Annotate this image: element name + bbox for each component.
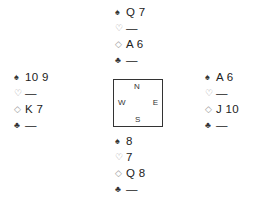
club-icon: ♣ (205, 117, 216, 133)
south-hand: ♠ 8 ♡ 7 ◇ Q 8 ♣ — (115, 133, 145, 197)
east-clubs: — (216, 117, 228, 133)
south-hearts: 7 (126, 149, 133, 165)
east-diamonds-row: ◇ J 10 (205, 101, 239, 117)
heart-icon: ♡ (115, 149, 126, 165)
north-clubs: — (126, 52, 138, 68)
south-clubs: — (126, 181, 138, 197)
east-spades-row: ♠ A 6 (205, 69, 239, 85)
east-clubs-row: ♣ — (205, 117, 239, 133)
compass-south-label: S (135, 115, 140, 124)
club-icon: ♣ (115, 52, 126, 68)
north-diamonds-row: ◇ A 6 (115, 36, 145, 52)
spade-icon: ♠ (115, 133, 126, 149)
north-hearts: — (126, 20, 138, 36)
south-spades-row: ♠ 8 (115, 133, 145, 149)
heart-icon: ♡ (205, 85, 216, 101)
compass-north-label: N (134, 82, 140, 91)
compass-west-label: W (118, 98, 126, 107)
north-hearts-row: ♡ — (115, 20, 145, 36)
spade-icon: ♠ (115, 4, 126, 20)
south-clubs-row: ♣ — (115, 181, 145, 197)
compass-east-label: E (153, 98, 158, 107)
east-spades: A 6 (216, 69, 234, 85)
spade-icon: ♠ (14, 69, 25, 85)
compass-table: N W E S (113, 79, 163, 127)
heart-icon: ♡ (115, 20, 126, 36)
east-hearts-row: ♡ — (205, 85, 239, 101)
west-hearts-row: ♡ — (14, 85, 49, 101)
heart-icon: ♡ (14, 85, 25, 101)
club-icon: ♣ (14, 117, 25, 133)
diamond-icon: ◇ (14, 101, 25, 117)
west-diamonds-row: ◇ K 7 (14, 101, 49, 117)
club-icon: ♣ (115, 181, 126, 197)
south-diamonds: Q 8 (126, 165, 145, 181)
spade-icon: ♠ (205, 69, 216, 85)
west-hand: ♠ 10 9 ♡ — ◇ K 7 ♣ — (14, 69, 49, 133)
north-hand: ♠ Q 7 ♡ — ◇ A 6 ♣ — (115, 4, 145, 68)
east-hand: ♠ A 6 ♡ — ◇ J 10 ♣ — (205, 69, 239, 133)
west-hearts: — (25, 85, 37, 101)
east-hearts: — (216, 85, 228, 101)
west-spades: 10 9 (25, 69, 49, 85)
west-spades-row: ♠ 10 9 (14, 69, 49, 85)
diamond-icon: ◇ (115, 165, 126, 181)
east-diamonds: J 10 (216, 101, 239, 117)
west-clubs-row: ♣ — (14, 117, 49, 133)
south-spades: 8 (126, 133, 133, 149)
south-hearts-row: ♡ 7 (115, 149, 145, 165)
south-diamonds-row: ◇ Q 8 (115, 165, 145, 181)
north-spades: Q 7 (126, 4, 145, 20)
north-spades-row: ♠ Q 7 (115, 4, 145, 20)
west-diamonds: K 7 (25, 101, 43, 117)
diamond-icon: ◇ (205, 101, 216, 117)
diamond-icon: ◇ (115, 36, 126, 52)
north-clubs-row: ♣ — (115, 52, 145, 68)
north-diamonds: A 6 (126, 36, 144, 52)
west-clubs: — (25, 117, 37, 133)
